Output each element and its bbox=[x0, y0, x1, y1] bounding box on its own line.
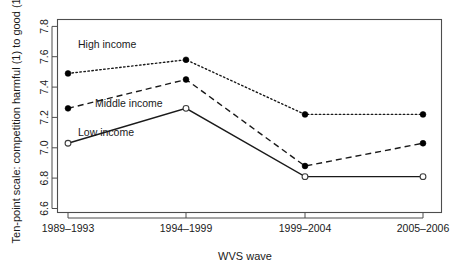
data-point bbox=[302, 174, 308, 180]
data-point bbox=[65, 140, 71, 146]
data-point bbox=[65, 105, 71, 111]
x-axis-ticks bbox=[68, 213, 423, 219]
chart-container: 6.6 6.8 7.0 7.2 7.4 7.6 7.8 Ten-point sc… bbox=[0, 0, 454, 279]
x-tick-label-1: 1989–1993 bbox=[42, 222, 95, 234]
data-point bbox=[183, 57, 189, 63]
data-point bbox=[420, 174, 426, 180]
y-tick-label-6-8: 6.8 bbox=[38, 171, 50, 186]
data-point bbox=[302, 112, 308, 118]
series-annotation-high-income: High income bbox=[78, 38, 137, 50]
x-tick-label-4: 2005–2006 bbox=[397, 222, 450, 234]
data-point bbox=[183, 77, 189, 83]
x-tick-label-2: 1994–1999 bbox=[160, 222, 213, 234]
x-tick-label-3: 1999–2004 bbox=[279, 222, 332, 234]
data-point bbox=[420, 140, 426, 146]
series-line-low-income bbox=[68, 108, 423, 176]
data-point bbox=[65, 71, 71, 77]
y-tick-label-7-6: 7.6 bbox=[38, 49, 50, 64]
y-tick-label-7-0: 7.0 bbox=[38, 140, 50, 155]
x-axis-tick-labels: 1989–1993 1994–1999 1999–2004 2005–2006 bbox=[42, 222, 450, 234]
data-point bbox=[302, 163, 308, 169]
y-axis-title: Ten-point scale: competition harmful (1)… bbox=[10, 0, 22, 243]
data-point bbox=[183, 105, 189, 111]
y-tick-label-7-4: 7.4 bbox=[38, 80, 50, 95]
series-annotation-middle-income: Middle income bbox=[95, 97, 163, 109]
series-line-middle-income bbox=[68, 80, 423, 166]
y-tick-label-7-8: 7.8 bbox=[38, 19, 50, 34]
x-axis-title: WVS wave bbox=[218, 250, 272, 262]
y-tick-label-6-6: 6.6 bbox=[38, 201, 50, 216]
y-tick-label-7-2: 7.2 bbox=[38, 110, 50, 125]
series-annotation-low-income: Low income bbox=[78, 126, 134, 138]
line-chart-svg: 6.6 6.8 7.0 7.2 7.4 7.6 7.8 Ten-point sc… bbox=[0, 0, 454, 279]
data-point bbox=[420, 112, 426, 118]
y-axis-ticks bbox=[52, 26, 58, 208]
y-axis-tick-labels: 6.6 6.8 7.0 7.2 7.4 7.6 7.8 bbox=[38, 19, 50, 216]
series-layer bbox=[65, 57, 426, 180]
